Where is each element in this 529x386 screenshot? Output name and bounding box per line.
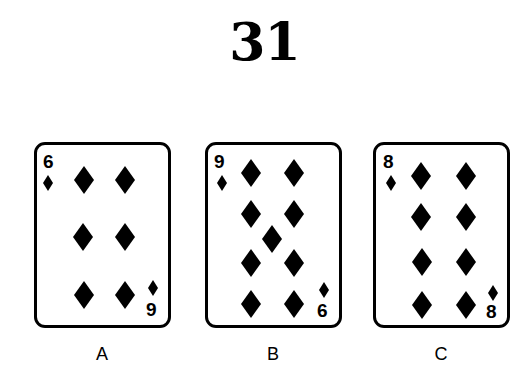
- diamond-pips: [376, 145, 507, 325]
- card-bottom-index: 8: [486, 302, 497, 321]
- diamond-pips: [208, 145, 339, 325]
- card-c-label: C: [421, 344, 461, 365]
- card-b-label: B: [253, 344, 293, 365]
- card-c: 8 8: [373, 142, 510, 328]
- card-a: 6 9: [34, 142, 171, 328]
- card-bottom-index: 9: [146, 300, 157, 319]
- puzzle-number: 31: [0, 12, 529, 72]
- card-b: 9 6: [205, 142, 342, 328]
- card-a-label: A: [82, 344, 122, 365]
- card-bottom-index: 6: [317, 301, 328, 320]
- diamond-pips: [37, 145, 168, 325]
